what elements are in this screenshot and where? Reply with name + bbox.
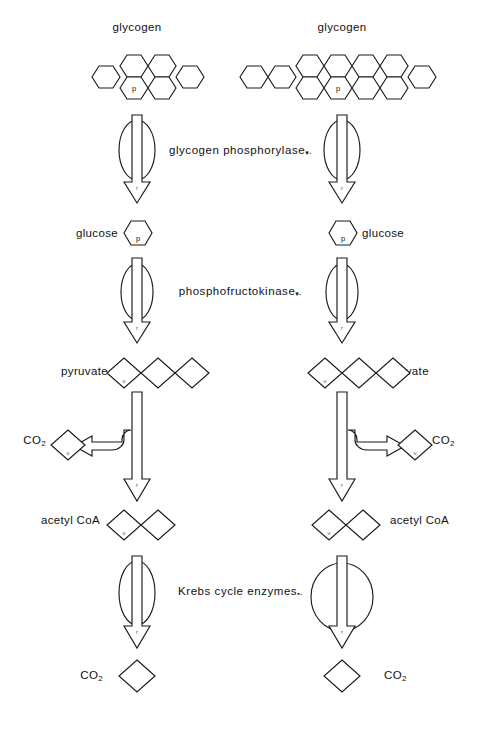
molecule-co2-mid-right: v xyxy=(398,430,432,460)
molecule-co2-bottom-left xyxy=(119,660,155,692)
arrow-step2-right: r xyxy=(326,258,358,343)
unit-mark-co2-mid-right: v xyxy=(414,450,417,456)
molecule-glucose-left: p xyxy=(124,221,152,245)
molecule-pyruvate-right: v xyxy=(308,358,410,388)
arrow-tick-step2-right: r xyxy=(341,325,343,331)
molecule-acetyl-coa-right: v xyxy=(312,510,380,540)
molecule-co2-bottom-right xyxy=(324,660,360,692)
arrow-step3-left: r xyxy=(74,392,150,501)
arrow-tick-step4-right: r xyxy=(341,629,343,635)
molecule-acetyl-coa-left: v xyxy=(107,510,175,540)
molecule-glycogen-right: p xyxy=(240,55,436,99)
phosphate-mark-glucose-left: p xyxy=(136,234,140,243)
arrow-step4-left: r xyxy=(119,556,155,648)
arrow-step1-right: r xyxy=(324,115,360,203)
arrow-tick-step1-right: r xyxy=(341,185,343,191)
arrow-tick-step3-left: r xyxy=(136,482,138,488)
arrow-step2-left: r xyxy=(121,258,153,343)
phosphate-mark-glycogen-left: p xyxy=(132,84,136,93)
branch-arrow-co2-right xyxy=(348,430,405,456)
pathway-column-left: p r p r v r xyxy=(51,55,209,692)
unit-mark-acetyl-coa-right: v xyxy=(328,530,331,536)
molecule-glucose-right: p xyxy=(329,221,357,245)
unit-mark-acetyl-coa-left: v xyxy=(123,530,126,536)
arrow-tick-step3-right: r xyxy=(341,482,343,488)
arrow-step3-right: r xyxy=(329,392,405,501)
phosphate-mark-glucose-right: p xyxy=(341,234,345,243)
arrow-tick-step4-left: r xyxy=(136,629,138,635)
molecule-pyruvate-left: v xyxy=(107,358,209,388)
unit-mark-pyruvate-right: v xyxy=(324,378,327,384)
arrow-step1-left: r xyxy=(119,115,155,203)
pathway-diagram-canvas: p r p r v r xyxy=(0,0,477,734)
arrow-tick-step2-left: r xyxy=(136,325,138,331)
unit-mark-co2-mid-left: v xyxy=(67,450,70,456)
unit-mark-pyruvate-left: v xyxy=(123,378,126,384)
pathway-column-right: p r p r v r xyxy=(240,55,436,692)
phosphate-mark-glycogen-right: p xyxy=(336,84,340,93)
molecule-glycogen-left: p xyxy=(92,55,204,99)
arrow-tick-step1-left: r xyxy=(136,185,138,191)
arrow-step4-right: r xyxy=(311,556,373,648)
molecule-co2-mid-left: v xyxy=(51,430,85,460)
